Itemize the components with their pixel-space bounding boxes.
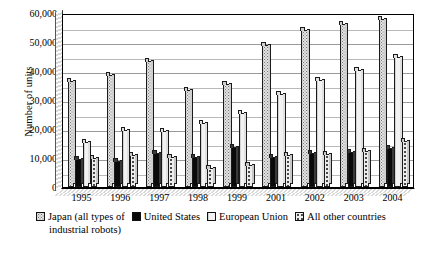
bar-2004-series-0 [379,19,385,187]
bar-top-face [152,150,156,154]
bar-top-face [315,77,319,81]
x-axis-tick-label: 2001 [256,192,295,203]
bar-2002-series-2 [316,80,322,187]
bar-side-face [213,167,216,184]
y-axis-tick-label: 10,000 [30,154,58,164]
bar-1995-series-1 [75,159,81,187]
bar-1996-series-0 [107,75,113,187]
bar-2003-series-3 [363,151,369,187]
bar-top-face [74,156,78,160]
legend-continuation-text: industrial robots) [49,223,426,236]
bar-side-face [174,156,177,184]
y-axis-tick-labels: 010,00020,00030,00040,00050,00060,000 [0,0,60,200]
bar-top-face [269,154,273,158]
bar-1999-series-1 [231,147,237,187]
bar-top-face [67,78,71,82]
x-axis-tick-label: 2004 [373,192,412,203]
bar-1999-series-2 [239,113,245,187]
legend-label: United States [144,210,200,223]
legend-item-2: European Union [207,210,288,223]
bar-side-face [252,164,255,184]
bar-1998-series-0 [185,90,191,187]
plot-area [62,14,414,188]
bar-chart-figure: Number of units 010,00020,00030,00040,00… [0,0,431,253]
legend-row: Japan (all types ofUnited StatesEuropean… [36,210,426,223]
x-axis-tick-label: 1998 [179,192,218,203]
bar-top-face [167,154,171,158]
x-axis-tick-label: 1995 [62,192,101,203]
bar-1997-series-2 [161,131,167,187]
x-axis-tick-label: 1996 [101,192,140,203]
chart-legend: Japan (all types ofUnited StatesEuropean… [36,210,426,236]
bar-top-face [245,162,249,166]
bar-top-face [191,154,195,158]
bar-1995-series-2 [83,142,89,187]
bar-1995-series-3 [91,158,97,187]
bar-1995-series-0 [68,81,74,187]
united-states-swatch [132,212,141,221]
bar-1997-series-3 [168,157,174,187]
bar-1999-series-0 [223,84,229,187]
bar-top-face [401,138,405,142]
bar-top-face [106,72,110,76]
bar-1997-series-0 [146,61,152,187]
bar-top-face [300,27,304,31]
bar-2004-series-2 [394,57,400,188]
bar-side-face [290,154,293,184]
japan-swatch [36,212,45,221]
bar-top-face [276,91,280,95]
bar-top-face [184,87,188,91]
all-other-countries-swatch [295,212,304,221]
bar-top-face [284,152,288,156]
bar-2001-series-2 [277,94,283,187]
bar-2002-series-0 [301,30,307,187]
bar-top-face [199,120,203,124]
legend-label: European Union [219,210,288,223]
y-axis-tick-label: 30,000 [30,96,58,106]
legend-item-1: United States [132,210,200,223]
bar-2003-series-2 [355,70,361,187]
bar-1998-series-2 [200,123,206,187]
bar-2004-series-1 [387,148,393,187]
bar-2001-series-3 [285,155,291,187]
bar-top-face [238,110,242,114]
bar-1996-series-3 [130,155,136,187]
x-axis-tick-labels: 199519961997199819992001200220032004 [62,190,415,206]
bar-side-face [135,154,138,184]
bar-side-face [329,153,332,184]
y-axis-tick-label: 50,000 [30,38,58,48]
x-axis-tick-label: 2002 [295,192,334,203]
bar-group-1998 [185,15,214,187]
x-axis-tick-label: 1999 [218,192,257,203]
bar-2004-series-3 [402,141,408,187]
y-axis-tick-label: 60,000 [30,9,58,19]
bar-top-face [121,127,125,131]
bar-top-face [160,128,164,132]
bar-group-1999 [223,15,252,187]
bar-group-1995 [68,15,97,187]
bar-group-2003 [340,15,369,187]
bar-top-face [339,21,343,25]
bar-top-face [308,150,312,154]
bar-top-face [129,152,133,156]
bar-2001-series-1 [270,157,276,187]
bar-top-face [230,144,234,148]
y-axis-tick-label: 40,000 [30,67,58,77]
bar-group-1997 [146,15,175,187]
european-union-swatch [207,212,216,221]
bar-group-2002 [301,15,330,187]
bar-top-face [354,67,358,71]
bar-group-2001 [262,15,291,187]
bar-1997-series-1 [153,153,159,187]
bar-2002-series-1 [309,153,315,187]
legend-label: Japan (all types of [48,210,125,223]
bar-1996-series-2 [122,130,128,187]
legend-item-0: Japan (all types of [36,210,125,223]
bar-2002-series-3 [324,154,330,187]
bar-side-face [96,157,99,184]
bar-top-face [347,149,351,153]
x-axis-tick-label: 2003 [334,192,373,203]
bar-top-face [90,155,94,159]
bar-series-container [63,15,413,187]
bar-1998-series-3 [207,168,213,187]
